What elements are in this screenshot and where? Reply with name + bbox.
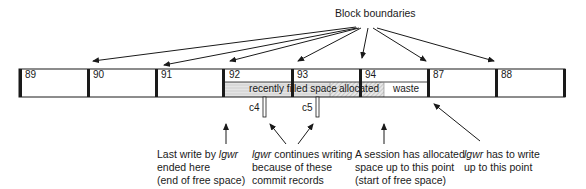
block-boundaries-title: Block boundaries: [335, 7, 416, 19]
commit-c5-marker: [316, 97, 319, 117]
block-label: 91: [161, 69, 172, 80]
commit-c5-label: c5: [302, 102, 313, 113]
commit-c4-marker: [263, 97, 266, 117]
block-label: 89: [25, 69, 36, 80]
allocated-label: allocated: [334, 83, 384, 94]
commit-c4-label: c4: [249, 102, 260, 113]
annotation-last-write: Last write by lgwr ended here (end of fr…: [157, 148, 245, 187]
block-label: 94: [365, 69, 376, 80]
block-label: 93: [297, 69, 308, 80]
block-label: 90: [93, 69, 104, 80]
block-label: 92: [229, 69, 240, 80]
block-label: 87: [433, 69, 444, 80]
annotation-continues: lgwr continues writing because of these …: [252, 148, 352, 187]
annotation-session: A session has allocated space up to this…: [355, 148, 465, 187]
block-label: 88: [501, 69, 512, 80]
annotation-has-to-write: lgwr has to write up to this point: [464, 148, 540, 174]
recently-filled-label: recently filled space: [237, 83, 349, 94]
boundary-arrows: [93, 27, 494, 65]
waste-label: waste: [384, 83, 428, 94]
